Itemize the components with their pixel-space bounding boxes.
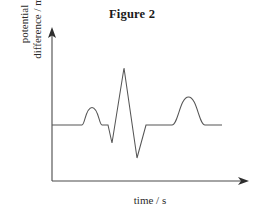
y-axis-label-line1: potential: [18, 5, 31, 44]
y-axis-label: potential difference / mV: [14, 0, 48, 82]
figure-container: Figure 2 potential difference / mV time …: [0, 0, 264, 211]
x-axis-label: time / s: [52, 190, 248, 208]
x-axis-label-text: time / s: [134, 194, 166, 206]
y-axis-label-line2: difference / mV: [31, 0, 44, 59]
ecg-trace-path: [52, 68, 222, 158]
